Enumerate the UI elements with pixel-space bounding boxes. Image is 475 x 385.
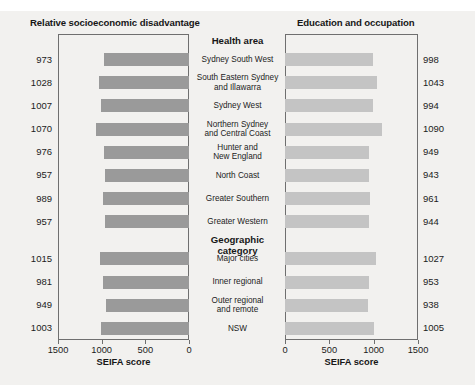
axis-tick-label: 500 — [138, 345, 154, 355]
value-label-right: 1005 — [423, 323, 444, 333]
category-label: Major cities — [190, 254, 285, 263]
axis-tick-label: 1500 — [48, 345, 69, 355]
bar-row — [285, 192, 418, 205]
axis-tick-label: 500 — [322, 345, 338, 355]
axis-tick — [145, 340, 146, 344]
value-label-left: 1007 — [31, 101, 52, 111]
left-value-labels: 9731028100710709769579899571015981949100… — [8, 34, 54, 340]
category-label-column: Health areaGeographic categorySydney Sou… — [190, 34, 285, 340]
bar-row — [285, 299, 418, 312]
bar-row — [58, 192, 189, 205]
bar-disadvantage — [96, 123, 189, 136]
value-label-left: 1003 — [31, 323, 52, 333]
axis-tick-label: 0 — [282, 345, 287, 355]
bar-row — [285, 215, 418, 228]
left-panel-title: Relative socioeconomic disadvantage — [30, 17, 200, 28]
bar-row — [58, 99, 189, 112]
axis-tick-label: 1500 — [408, 345, 429, 355]
bar-disadvantage — [104, 146, 189, 159]
value-label-right: 938 — [423, 300, 439, 310]
bar-disadvantage — [103, 192, 189, 205]
category-label: Inner regional — [190, 277, 285, 286]
value-label-left: 957 — [36, 217, 52, 227]
category-label: Hunter andNew England — [190, 143, 285, 162]
bar-education — [285, 169, 369, 182]
value-label-right: 961 — [423, 194, 439, 204]
axis-tick-label: 1000 — [363, 345, 384, 355]
left-axis: SEIFA score 150010005000 — [58, 340, 189, 370]
bar-disadvantage — [106, 299, 189, 312]
bar-row — [58, 299, 189, 312]
category-label: South Eastern Sydneyand Illawarra — [190, 73, 285, 92]
bar-row — [285, 276, 418, 289]
bar-row — [58, 322, 189, 335]
bar-row — [58, 276, 189, 289]
value-label-right: 943 — [423, 170, 439, 180]
axis-tick-label: 0 — [186, 345, 191, 355]
value-label-right: 1043 — [423, 78, 444, 88]
value-label-right: 1027 — [423, 254, 444, 264]
value-label-right: 953 — [423, 277, 439, 287]
bar-row — [58, 169, 189, 182]
value-label-left: 989 — [36, 194, 52, 204]
bar-disadvantage — [101, 99, 189, 112]
bar-disadvantage — [103, 276, 189, 289]
bar-row — [58, 252, 189, 265]
bar-education — [285, 322, 374, 335]
value-label-left: 1070 — [31, 124, 52, 134]
bar-education — [285, 215, 369, 228]
bar-row — [58, 123, 189, 136]
bar-disadvantage — [99, 76, 189, 89]
bar-education — [285, 252, 376, 265]
bar-row — [285, 123, 418, 136]
left-bar-group — [58, 34, 189, 340]
bar-row — [285, 252, 418, 265]
bar-education — [285, 123, 382, 136]
category-label: Sydney South West — [190, 55, 285, 64]
right-bar-group — [285, 34, 418, 340]
axis-tick — [189, 340, 190, 344]
value-label-left: 949 — [36, 300, 52, 310]
bar-disadvantage — [105, 215, 189, 228]
right-axis-title: SEIFA score — [325, 357, 379, 367]
value-label-left: 1015 — [31, 254, 52, 264]
bar-row — [285, 99, 418, 112]
axis-tick — [285, 340, 286, 344]
value-label-right: 944 — [423, 217, 439, 227]
bar-row — [285, 322, 418, 335]
category-label: Sydney West — [190, 101, 285, 110]
value-label-left: 976 — [36, 147, 52, 157]
bar-education — [285, 76, 377, 89]
figure-caption-strip — [0, 0, 475, 11]
value-label-left: 1028 — [31, 78, 52, 88]
section-header: Health area — [190, 35, 285, 46]
value-label-right: 998 — [423, 55, 439, 65]
value-label-left: 981 — [36, 277, 52, 287]
axis-tick — [329, 340, 330, 344]
category-label: Greater Western — [190, 217, 285, 226]
axis-tick-label: 1000 — [91, 345, 112, 355]
axis-tick — [374, 340, 375, 344]
axis-tick — [418, 340, 419, 344]
category-label: North Coast — [190, 171, 285, 180]
bar-row — [58, 215, 189, 228]
bar-education — [285, 299, 368, 312]
bar-row — [285, 53, 418, 66]
bar-row — [285, 76, 418, 89]
value-label-left: 973 — [36, 55, 52, 65]
right-axis: SEIFA score 050010001500 — [285, 340, 418, 370]
value-label-right: 994 — [423, 101, 439, 111]
bar-row — [58, 53, 189, 66]
figure-container: Relative socioeconomic disadvantage Educ… — [0, 0, 475, 385]
bar-row — [58, 76, 189, 89]
bar-education — [285, 276, 369, 289]
bar-row — [285, 146, 418, 159]
bar-education — [285, 99, 373, 112]
axis-tick — [58, 340, 59, 344]
value-label-right: 1090 — [423, 124, 444, 134]
bar-education — [285, 53, 373, 66]
category-label: Northern Sydneyand Central Coast — [190, 120, 285, 139]
bar-education — [285, 192, 370, 205]
category-label: Outer regionaland remote — [190, 296, 285, 315]
section-header: Geographic category — [190, 234, 285, 256]
